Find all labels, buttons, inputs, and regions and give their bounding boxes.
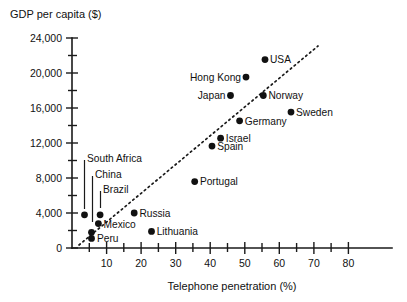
x-tick-label: 80	[343, 257, 355, 269]
data-point-norway[interactable]	[260, 92, 267, 99]
label-south-africa: South Africa	[87, 153, 142, 164]
x-tick-label: 30	[170, 257, 182, 269]
data-point-labels: USA Hong Kong Japan Norway Sweden German…	[87, 54, 333, 244]
x-tick-label: 20	[135, 257, 147, 269]
label-russia: Russia	[139, 208, 170, 219]
label-norway: Norway	[269, 90, 304, 101]
label-peru: Peru	[97, 233, 119, 244]
data-point-portugal[interactable]	[191, 178, 198, 185]
x-tick-label: 70	[308, 257, 320, 269]
y-tick-label: 24,000	[30, 32, 62, 44]
label-lithuania: Lithuania	[157, 226, 199, 237]
data-point-mexico[interactable]	[95, 220, 102, 227]
x-tick-label: 50	[239, 257, 251, 269]
label-usa: USA	[270, 54, 291, 65]
data-point-south-africa[interactable]	[81, 211, 88, 218]
x-axis-tick-labels: 10 20 30 40 50 60 70 80	[101, 257, 355, 269]
y-tick-label: 16,000	[30, 102, 62, 114]
data-point-lithuania[interactable]	[148, 228, 155, 235]
y-tick-label: 8,000	[36, 172, 62, 184]
data-point-china[interactable]	[88, 229, 95, 236]
chart-canvas: GDP per capita ($) 0 4,000 8,000	[0, 0, 407, 302]
label-mexico: Mexico	[104, 219, 137, 230]
x-axis-title: Telephone penetration (%)	[167, 280, 296, 292]
scatter-chart: GDP per capita ($) 0 4,000 8,000	[0, 0, 407, 302]
label-germany: Germany	[245, 116, 288, 127]
data-points	[81, 56, 294, 242]
data-point-russia[interactable]	[131, 210, 138, 217]
y-tick-label: 4,000	[36, 207, 62, 219]
data-point-japan[interactable]	[227, 92, 234, 99]
data-point-brazil[interactable]	[97, 211, 104, 218]
y-axis-title: GDP per capita ($)	[10, 8, 102, 20]
label-spain: Spain	[217, 141, 243, 152]
y-tick-label: 0	[56, 242, 62, 254]
label-japan: Japan	[198, 90, 226, 101]
data-point-peru[interactable]	[88, 235, 95, 242]
label-sweden: Sweden	[296, 107, 333, 118]
label-hong-kong: Hong Kong	[190, 72, 241, 83]
label-china: China	[95, 169, 122, 180]
y-tick-label: 12,000	[30, 137, 62, 149]
y-axis-tick-labels: 0 4,000 8,000 12,000 16,000 20,000 24,00…	[30, 32, 62, 254]
data-point-germany[interactable]	[236, 117, 243, 124]
data-point-usa[interactable]	[262, 56, 269, 63]
data-point-spain[interactable]	[209, 143, 216, 150]
x-tick-label: 40	[204, 257, 216, 269]
label-brazil: Brazil	[103, 184, 128, 195]
y-tick-label: 20,000	[30, 67, 62, 79]
data-point-sweden[interactable]	[288, 109, 295, 116]
label-portugal: Portugal	[200, 176, 238, 187]
data-point-hong-kong[interactable]	[243, 74, 250, 81]
x-tick-label: 60	[273, 257, 285, 269]
x-tick-label: 10	[101, 257, 113, 269]
